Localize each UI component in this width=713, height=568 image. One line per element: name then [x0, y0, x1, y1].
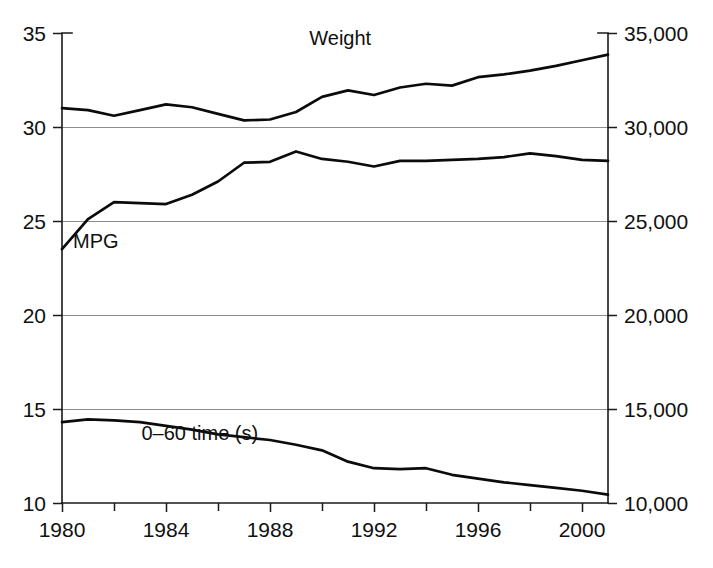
- series-line-weight: [62, 55, 608, 121]
- ytick-label-left-15: 15: [23, 398, 46, 421]
- series-label-weight: Weight: [309, 27, 371, 49]
- xtick-label-1980: 1980: [39, 518, 86, 541]
- series-line-mpg: [62, 151, 608, 249]
- tick-marks: [53, 34, 617, 513]
- ytick-label-left-30: 30: [23, 116, 46, 139]
- ytick-label-right-10000: 10,000: [624, 492, 688, 515]
- left-axis-line: [62, 33, 72, 503]
- right-axis-line: [598, 33, 608, 503]
- ytick-label-left-20: 20: [23, 304, 46, 327]
- line-chart: 10152025303510,00015,00020,00025,00030,0…: [0, 0, 713, 568]
- ytick-label-right-25000: 25,000: [624, 210, 688, 233]
- ytick-label-right-20000: 20,000: [624, 304, 688, 327]
- xtick-label-1992: 1992: [351, 518, 398, 541]
- chart-container: 10152025303510,00015,00020,00025,00030,0…: [0, 0, 713, 568]
- series-label-0-60-time-s: 0–60 time (s): [141, 422, 258, 444]
- xtick-label-1988: 1988: [247, 518, 294, 541]
- ytick-label-right-15000: 15,000: [624, 398, 688, 421]
- xtick-label-1996: 1996: [455, 518, 502, 541]
- xtick-label-2000: 2000: [559, 518, 606, 541]
- ytick-label-left-35: 35: [23, 22, 46, 45]
- series-label-mpg: MPG: [73, 230, 119, 252]
- ytick-label-left-25: 25: [23, 210, 46, 233]
- ytick-label-right-30000: 30,000: [624, 116, 688, 139]
- ytick-label-left-10: 10: [23, 492, 46, 515]
- xtick-label-1984: 1984: [143, 518, 190, 541]
- ytick-label-right-35000: 35,000: [624, 22, 688, 45]
- gridlines: [62, 128, 608, 410]
- series-annotations: WeightMPG0–60 time (s): [73, 27, 372, 444]
